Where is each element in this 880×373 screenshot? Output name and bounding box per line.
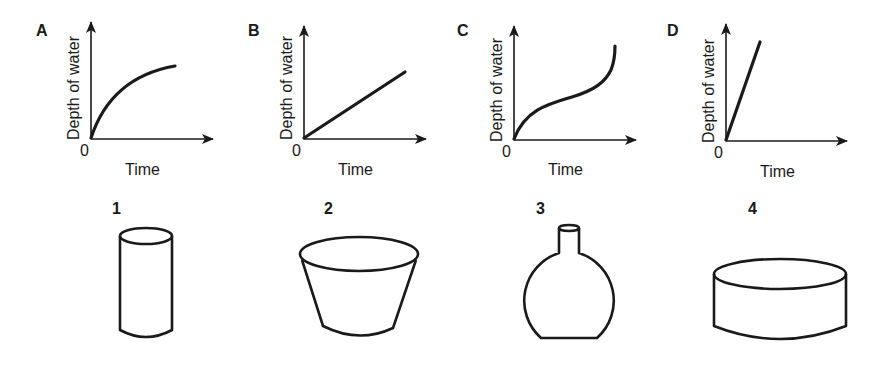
graph-label: B [248,22,260,39]
y-axis-label: Depth of water [278,35,295,140]
x-axis-label: Time [125,161,160,178]
graph-label: D [667,22,679,39]
graph-c: C Depth of water 0 Time [457,22,636,178]
cylinder-top [120,228,172,244]
graph-label: C [457,22,469,39]
x-axis-label: Time [760,163,795,180]
bucket-rim [300,237,418,271]
depth-curve [514,46,615,139]
diagram-canvas: A Depth of water 0 Time B Depth of water… [0,0,880,373]
origin-label: 0 [292,142,301,159]
x-axis-label: Time [338,161,373,178]
container-label: 2 [324,200,333,217]
container-1: 1 [112,200,172,337]
graph-label: A [36,22,48,39]
container-label: 4 [748,200,757,217]
origin-label: 0 [502,143,511,160]
container-label: 3 [536,200,545,217]
container-label: 1 [112,200,121,217]
depth-line [726,42,760,140]
origin-label: 0 [80,142,89,159]
flask-neck-top [559,225,579,231]
y-axis-label: Depth of water [488,37,505,142]
depth-line [304,72,405,138]
origin-label: 0 [714,144,723,161]
y-axis-label: Depth of water [700,38,717,143]
y-axis-label: Depth of water [65,35,82,140]
cylinder-top [714,259,846,289]
x-axis-label: Time [548,161,583,178]
container-4: 4 [714,200,846,339]
container-3: 3 [524,200,614,338]
graph-d: D Depth of water 0 Time [667,22,847,180]
cylinder-body [120,236,172,337]
graph-a: A Depth of water 0 Time [36,22,213,178]
container-2: 2 [300,200,418,336]
depth-curve [91,66,175,138]
graph-b: B Depth of water 0 Time [248,22,426,178]
flask-body [524,228,614,338]
